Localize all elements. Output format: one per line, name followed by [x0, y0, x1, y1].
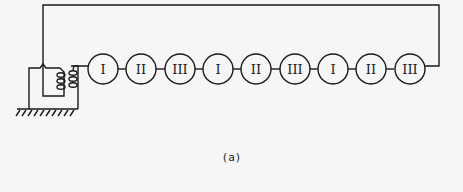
- node-8: II: [356, 54, 386, 84]
- node-5: II: [241, 54, 271, 84]
- svg-text:I: I: [330, 62, 335, 77]
- svg-text:I: I: [215, 62, 220, 77]
- node-6: III: [280, 54, 310, 84]
- svg-text:II: II: [251, 62, 261, 77]
- node-1: I: [88, 54, 118, 84]
- svg-text:II: II: [136, 62, 146, 77]
- svg-text:III: III: [402, 62, 417, 77]
- figure-caption: (a): [0, 151, 463, 164]
- node-2: II: [126, 54, 156, 84]
- svg-text:III: III: [172, 62, 187, 77]
- node-7: I: [318, 54, 348, 84]
- ground-icon: [16, 109, 78, 116]
- svg-text:II: II: [366, 62, 376, 77]
- svg-text:III: III: [287, 62, 302, 77]
- node-9: III: [395, 54, 425, 84]
- svg-text:I: I: [100, 62, 105, 77]
- transformer-icon: [29, 64, 88, 109]
- node-4: I: [203, 54, 233, 84]
- node-3: III: [165, 54, 195, 84]
